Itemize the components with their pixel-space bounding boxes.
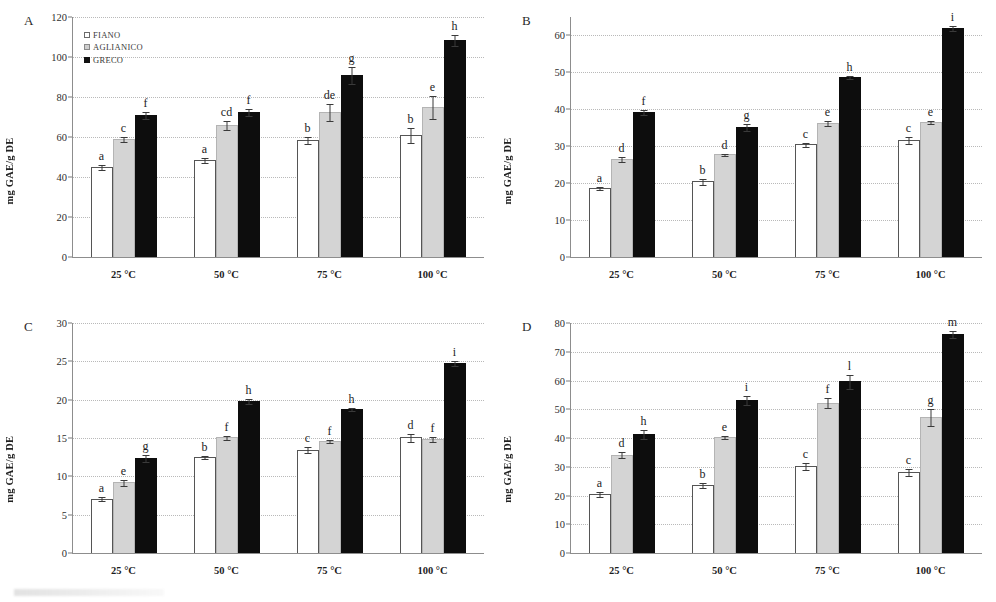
bar-greco[interactable]: g — [135, 458, 157, 553]
bar-fiano[interactable]: b — [297, 140, 319, 257]
bar-aglianico[interactable]: f — [319, 441, 341, 553]
error-bar — [908, 469, 909, 477]
significance-label: h — [641, 415, 647, 427]
bar-aglianico[interactable]: f — [216, 437, 238, 553]
panel-c: Cmg GAE/g DE051015202530aegbfhcfhdfi25 °… — [0, 301, 498, 602]
panel-letter: D — [522, 319, 532, 335]
bar-aglianico[interactable]: e — [113, 482, 135, 553]
significance-label: d — [408, 419, 414, 431]
bar-fiano[interactable]: a — [589, 494, 611, 553]
legend-item-fiano[interactable]: FIANO — [84, 29, 143, 41]
significance-label: e — [121, 465, 126, 477]
y-tick-label: 60 — [555, 30, 571, 41]
bar-slot: b — [692, 323, 714, 553]
bar-aglianico[interactable]: de — [319, 112, 341, 257]
error-bar — [724, 154, 725, 158]
error-bar — [849, 375, 850, 390]
x-axis-labels: 25 °C50 °C75 °C100 °C — [570, 269, 982, 280]
y-axis-title: mg GAE/g DE — [502, 374, 513, 503]
error-bar — [248, 109, 249, 116]
significance-label: f — [328, 425, 332, 437]
y-tick-label: 10 — [57, 471, 73, 482]
bar-fiano[interactable]: b — [400, 135, 422, 257]
chart-legend: FIANOAGLIANICOGRECO — [84, 29, 143, 66]
bar-aglianico[interactable]: e — [920, 122, 942, 257]
bar-aglianico[interactable]: e — [422, 107, 444, 257]
bar-group-inner: bfh — [194, 323, 260, 553]
bar-greco[interactable]: f — [633, 112, 655, 257]
bar-fiano[interactable]: c — [297, 450, 319, 554]
panel-d: Dmg GAE/g DE01020304050607080adhbeicflcg… — [498, 301, 996, 602]
bar-aglianico[interactable]: d — [611, 455, 633, 553]
bar-fiano[interactable]: b — [692, 485, 714, 553]
bar-fiano[interactable]: a — [91, 167, 113, 257]
error-bar — [746, 396, 747, 406]
bar-slot: f — [817, 323, 839, 553]
bar-aglianico[interactable]: f — [422, 439, 444, 553]
bar-greco[interactable]: i — [736, 400, 758, 553]
significance-label: d — [619, 437, 625, 449]
bar-fiano[interactable]: c — [795, 144, 817, 257]
error-bar — [351, 67, 352, 85]
bar-greco[interactable]: f — [238, 112, 260, 257]
bar-group: cfh — [278, 323, 381, 553]
bar-fiano[interactable]: c — [898, 472, 920, 553]
bar-greco[interactable]: m — [942, 334, 964, 553]
bar-aglianico[interactable]: d — [714, 154, 736, 257]
bar-greco[interactable]: l — [839, 381, 861, 553]
bar-fiano[interactable]: c — [795, 466, 817, 553]
bar-group-inner: dfi — [400, 323, 466, 553]
bar-greco[interactable]: h — [444, 40, 466, 257]
bar-greco[interactable]: i — [942, 28, 964, 257]
bar-greco[interactable]: h — [633, 434, 655, 553]
bar-greco[interactable]: f — [135, 115, 157, 257]
bar-aglianico[interactable]: e — [817, 123, 839, 257]
bar-fiano[interactable]: a — [194, 160, 216, 257]
bar-fiano[interactable]: b — [692, 181, 714, 257]
bar-fiano[interactable]: c — [898, 140, 920, 257]
x-tick-label: 75 °C — [278, 565, 381, 576]
bar-aglianico[interactable]: cd — [216, 125, 238, 257]
bar-slot: b — [692, 17, 714, 257]
bar-greco[interactable]: g — [341, 75, 363, 257]
gridline — [72, 553, 484, 554]
significance-label: f — [642, 95, 646, 107]
bar-slot: f — [633, 17, 655, 257]
bar-slot: b — [400, 17, 422, 257]
bar-slot: g — [920, 323, 942, 553]
x-tick-label: 100 °C — [879, 565, 982, 576]
error-bar — [702, 179, 703, 186]
error-bar — [599, 187, 600, 191]
y-tick-label: 50 — [555, 404, 571, 415]
y-tick-label: 50 — [555, 67, 571, 78]
legend-item-aglianico[interactable]: AGLIANICO — [84, 41, 143, 53]
bar-fiano[interactable]: a — [91, 499, 113, 553]
error-bar — [454, 361, 455, 367]
bar-greco[interactable]: g — [736, 127, 758, 257]
bar-greco[interactable]: h — [839, 77, 861, 257]
y-tick-label: 30 — [555, 461, 571, 472]
error-bar — [621, 452, 622, 459]
bar-aglianico[interactable]: g — [920, 417, 942, 553]
error-bar — [908, 137, 909, 145]
legend-item-greco[interactable]: GRECO — [84, 54, 143, 66]
bar-fiano[interactable]: a — [589, 188, 611, 257]
bar-greco[interactable]: h — [238, 401, 260, 553]
panel-a: Amg GAE/g DE020406080100120acfacdfbdegbe… — [0, 0, 498, 301]
bar-fiano[interactable]: d — [400, 437, 422, 553]
significance-label: e — [722, 421, 727, 433]
bar-fiano[interactable]: b — [194, 457, 216, 553]
bar-aglianico[interactable]: e — [714, 437, 736, 553]
bar-aglianico[interactable]: d — [611, 159, 633, 257]
error-bar — [432, 437, 433, 443]
bar-group-inner: cfl — [795, 323, 861, 553]
y-tick-label: 0 — [62, 252, 72, 263]
bar-greco[interactable]: h — [341, 409, 363, 553]
page-artifact-smudge — [14, 589, 164, 596]
legend-label: AGLIANICO — [93, 41, 143, 53]
bar-aglianico[interactable]: f — [817, 403, 839, 553]
bar-greco[interactable]: i — [444, 363, 466, 553]
bar-aglianico[interactable]: c — [113, 139, 135, 257]
bar-slot: h — [839, 17, 861, 257]
legend-label: FIANO — [93, 29, 120, 41]
